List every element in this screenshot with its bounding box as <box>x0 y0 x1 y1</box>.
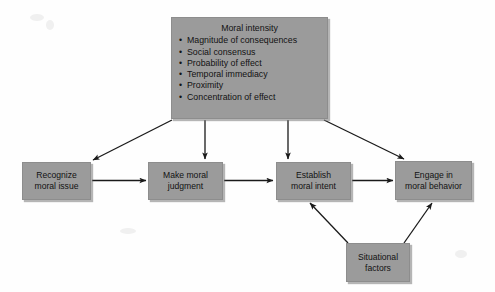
node-label-line2: factors <box>365 263 391 274</box>
node-make-moral-judgment: Make moral judgment <box>148 162 223 200</box>
moral-intensity-bullet: Concentration of effect <box>179 92 320 103</box>
node-label-line2: moral behavior <box>405 181 462 192</box>
node-establish-moral-intent: Establish moral intent <box>276 162 351 200</box>
arrow-intensity-to-recognize <box>93 120 172 160</box>
arrow-situational-to-behavior <box>404 203 432 243</box>
node-label-line1: Establish <box>296 170 331 181</box>
diagram-canvas: Moral intensity Magnitude of consequence… <box>0 0 495 292</box>
node-label-line2: moral issue <box>35 181 79 192</box>
moral-intensity-bullet: Proximity <box>179 80 320 91</box>
node-recognize-moral-issue: Recognize moral issue <box>22 162 91 200</box>
node-engage-in-moral-behavior: Engage in moral behavior <box>395 161 472 200</box>
moral-intensity-title: Moral intensity <box>179 23 320 34</box>
node-label-line2: moral intent <box>291 181 336 192</box>
node-label-line1: Make moral <box>163 170 208 181</box>
node-situational-factors: Situational factors <box>346 243 410 282</box>
node-label-line1: Engage in <box>414 170 453 181</box>
arrow-intensity-to-behavior <box>324 120 404 159</box>
arrow-situational-to-intent <box>310 203 348 243</box>
moral-intensity-bullet-list: Magnitude of consequences Social consens… <box>179 35 320 103</box>
node-label-line1: Situational <box>358 252 398 263</box>
node-label-line2: judgment <box>168 181 203 192</box>
moral-intensity-bullet: Probability of effect <box>179 58 320 69</box>
moral-intensity-bullet: Magnitude of consequences <box>179 35 320 46</box>
node-moral-intensity: Moral intensity Magnitude of consequence… <box>171 17 328 119</box>
moral-intensity-bullet: Temporal immediacy <box>179 69 320 80</box>
moral-intensity-bullet: Social consensus <box>179 47 320 58</box>
node-label-line1: Recognize <box>36 170 77 181</box>
